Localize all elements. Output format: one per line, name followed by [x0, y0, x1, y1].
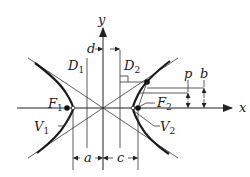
label-a: a — [84, 150, 92, 165]
label-D2: D2 — [123, 58, 140, 75]
label-c: c — [117, 150, 125, 165]
focus-F1 — [64, 105, 70, 111]
label-V2: V2 — [160, 119, 175, 136]
label-F1: F1 — [47, 96, 63, 113]
label-d: d — [87, 41, 95, 56]
hyperbola-diagram: y x D1 D2 F1 F2 V1 V2 d a c p b — [0, 0, 250, 177]
y-axis-label: y — [97, 12, 106, 27]
x-axis-label: x — [239, 100, 247, 115]
vertex-V1 — [71, 106, 75, 110]
label-b: b — [200, 66, 208, 81]
right-angle-marker — [120, 76, 128, 82]
vertex-V2 — [131, 106, 135, 110]
label-D1: D1 — [67, 58, 84, 75]
F2-leader — [139, 103, 155, 107]
label-p: p — [184, 66, 193, 81]
label-V1: V1 — [34, 119, 49, 136]
label-F2: F2 — [156, 95, 172, 112]
